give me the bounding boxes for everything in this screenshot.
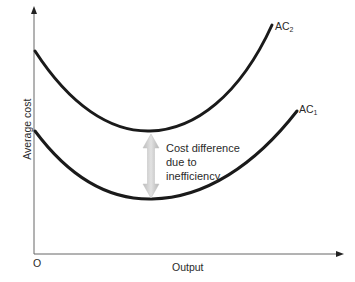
y-axis-arrow-icon — [31, 6, 37, 14]
ac1-label: AC1 — [299, 104, 318, 116]
annotation-line-1: Cost difference — [166, 141, 266, 155]
x-axis-label: Output — [172, 262, 204, 273]
ac2-curve — [35, 25, 272, 131]
cost-difference-annotation: Cost difference due to inefficiency — [166, 141, 266, 183]
annotation-line-3: inefficiency — [166, 169, 266, 183]
origin-label: O — [33, 258, 41, 269]
annotation-line-2: due to — [166, 155, 266, 169]
cost-difference-arrow-icon — [143, 134, 159, 198]
x-axis — [34, 251, 344, 257]
x-axis-arrow-icon — [336, 251, 344, 257]
y-axis-label: Average cost — [22, 94, 33, 164]
ac2-label: AC2 — [275, 21, 294, 33]
